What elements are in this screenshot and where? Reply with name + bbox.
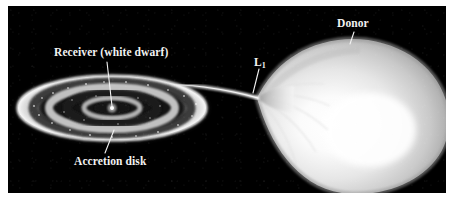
label-lagrange-point-subscript: 1 <box>262 61 266 70</box>
figure-container: Receiver (white dwarf) Accretion disk L1… <box>0 0 453 205</box>
leader-line-l1 <box>253 69 259 93</box>
donor-hotspot <box>324 93 416 167</box>
diagram-panel: Receiver (white dwarf) Accretion disk L1… <box>8 6 446 193</box>
white-dwarf <box>110 106 114 110</box>
label-lagrange-point-letter: L <box>254 56 262 68</box>
label-accretion-disk: Accretion disk <box>74 156 146 168</box>
label-donor: Donor <box>337 18 369 30</box>
label-lagrange-point: L1 <box>254 57 266 69</box>
label-receiver: Receiver (white dwarf) <box>54 47 168 59</box>
donor-star-group <box>257 39 446 193</box>
accretion-disk-group <box>15 73 209 143</box>
